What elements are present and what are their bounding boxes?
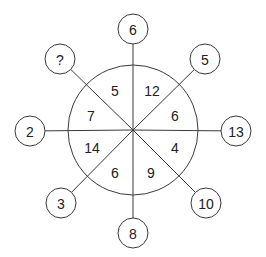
spoke-left	[45, 130, 133, 131]
outer-node-bottom: 8	[129, 227, 137, 241]
inner-segment-value: 5	[111, 84, 119, 98]
outer-node-bottom-right: 10	[198, 197, 214, 211]
spoke-top-left	[71, 69, 133, 130]
inner-segment-value: 12	[144, 84, 160, 98]
inner-segment-value: 9	[147, 166, 155, 180]
inner-segment-value: 6	[171, 109, 179, 123]
outer-node-unknown: ?	[56, 53, 64, 67]
spoke-right	[133, 130, 221, 131]
spoke-bottom-right	[133, 130, 195, 192]
number-wheel-diagram: 6 5 13 10 8 3 2 ? 5 12 6 4 9 6 14 7	[0, 0, 266, 257]
inner-segment-value: 4	[171, 141, 179, 155]
spoke-bottom-left	[72, 130, 133, 192]
outer-node-bottom-left: 3	[57, 197, 65, 211]
outer-node-top: 6	[129, 23, 137, 37]
inner-segment-value: 14	[84, 141, 100, 155]
outer-node-left: 2	[26, 125, 34, 139]
wheel-graphic	[0, 0, 266, 257]
inner-segment-value: 7	[87, 109, 95, 123]
spoke-top-right	[133, 70, 194, 130]
outer-node-right: 13	[228, 125, 244, 139]
outer-node-top-right: 5	[201, 53, 209, 67]
inner-segment-value: 6	[111, 166, 119, 180]
